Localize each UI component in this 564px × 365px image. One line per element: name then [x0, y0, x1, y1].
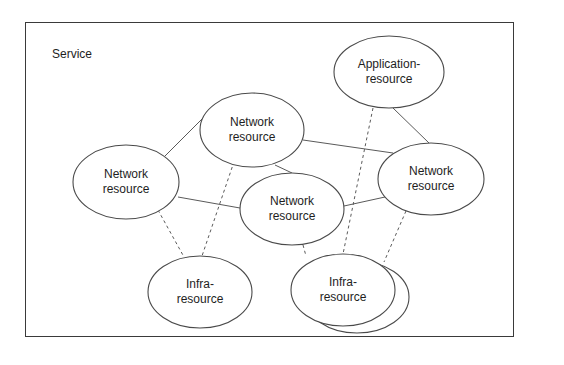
node-app-shape[interactable]: [334, 36, 444, 108]
node-infra-left-shape[interactable]: [148, 256, 252, 328]
edge-net-left-infra-left: [158, 210, 184, 257]
edge-net-left-net-center: [178, 197, 240, 208]
edge-net-right-infra-right: [384, 211, 406, 262]
edge-net-top-net-center: [275, 165, 292, 173]
node-net-right-shape[interactable]: [378, 143, 484, 215]
node-net-top-shape[interactable]: [200, 93, 304, 167]
edge-app-net-right: [393, 108, 429, 143]
edge-net-top-infra-left: [202, 150, 238, 256]
nodes: [73, 36, 484, 333]
edge-net-center-net-right: [344, 197, 385, 206]
edge-net-top-net-right: [303, 140, 393, 153]
node-net-center-shape[interactable]: [240, 173, 344, 245]
edge-app-infra-right: [343, 108, 373, 254]
node-infra-right-shape[interactable]: [291, 254, 395, 326]
edge-net-center-infra-right: [303, 245, 306, 256]
service-diagram: Service Network: [0, 0, 564, 365]
node-net-left-shape[interactable]: [73, 145, 179, 219]
diagram-canvas: [0, 0, 564, 365]
